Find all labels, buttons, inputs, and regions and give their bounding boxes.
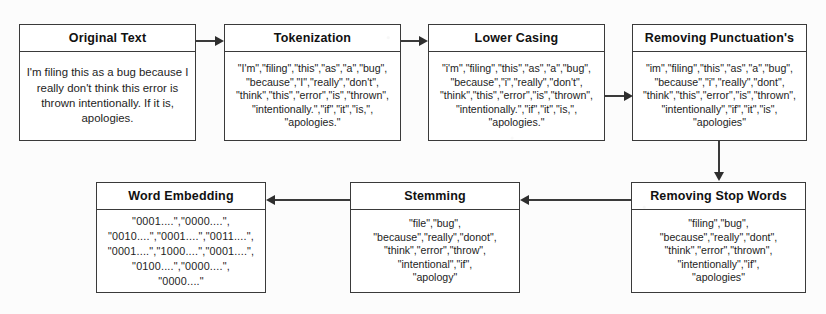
node-word-embedding-body: "0001....","0000....", "0010....","0001.… [97, 210, 265, 292]
edge-stemming-to-word-embedding-arrowhead [266, 195, 275, 205]
node-removing-punctuations-title: Removing Punctuation's [633, 25, 806, 52]
edge-tokenization-to-lower-casing-arrowhead [419, 36, 428, 46]
node-word-embedding-title: Word Embedding [97, 183, 265, 210]
edge-original-to-tokenization-line [196, 40, 215, 42]
edge-tokenization-to-lower-casing-line [401, 40, 419, 42]
node-original-text-title: Original Text [20, 25, 195, 52]
edge-removing-stop-words-to-stemming-arrowhead [520, 195, 529, 205]
node-lower-casing-title: Lower Casing [429, 25, 604, 52]
node-stemming[interactable]: Stemming "file","bug", "because","really… [350, 182, 520, 293]
edge-removing-punctuations-to-removing-stop-words-line [718, 141, 720, 173]
node-tokenization[interactable]: Tokenization "I'm","filing","this","as",… [224, 24, 401, 141]
node-stemming-body: "file","bug", "because","really","donot"… [351, 210, 519, 292]
edge-removing-stop-words-to-stemming-line [529, 199, 631, 201]
diagram-canvas: Original Text I'm filing this as a bug b… [0, 0, 826, 314]
edge-lower-casing-to-removing-punctuations-arrowhead [624, 91, 633, 101]
node-tokenization-body: "I'm","filing","this","as","a","bug", "b… [225, 52, 400, 140]
node-original-text-body: I'm filing this as a bug because I reall… [20, 52, 195, 140]
node-removing-punctuations-body: "im","filing","this","as","a","bug", "be… [633, 52, 806, 140]
edge-removing-punctuations-to-removing-stop-words-arrowhead [714, 172, 724, 181]
node-removing-stop-words-title: Removing Stop Words [632, 183, 805, 210]
node-lower-casing[interactable]: Lower Casing "i'm","filing","this","as",… [428, 24, 605, 141]
edge-stemming-to-word-embedding-line [275, 199, 350, 201]
node-lower-casing-body: "i'm","filing","this","as","a","bug", "b… [429, 52, 604, 140]
edge-lower-casing-to-removing-punctuations-line [605, 95, 624, 97]
edge-original-to-tokenization-arrowhead [215, 36, 224, 46]
node-word-embedding[interactable]: Word Embedding "0001....","0000....", "0… [96, 182, 266, 293]
node-stemming-title: Stemming [351, 183, 519, 210]
node-removing-stop-words-body: "filing","bug", "because","really","dont… [632, 210, 805, 292]
node-removing-stop-words[interactable]: Removing Stop Words "filing","bug", "bec… [631, 182, 806, 293]
node-original-text[interactable]: Original Text I'm filing this as a bug b… [19, 24, 196, 141]
node-removing-punctuations[interactable]: Removing Punctuation's "im","filing","th… [632, 24, 807, 141]
node-tokenization-title: Tokenization [225, 25, 400, 52]
